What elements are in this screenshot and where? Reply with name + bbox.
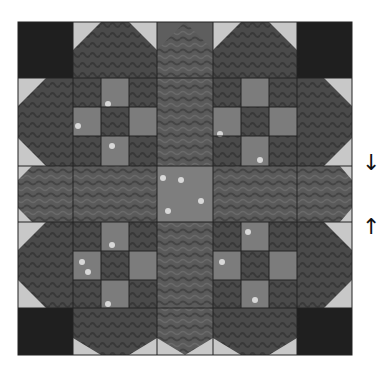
corner-square-tl (18, 22, 73, 78)
center-square (157, 166, 213, 222)
quilt-block (0, 0, 389, 383)
star-point-top-fabric (157, 22, 213, 190)
arrow-up-icon: ↑ (362, 216, 380, 238)
arrow-down-icon: ↓ (362, 152, 380, 174)
corner-square-tr (297, 22, 352, 78)
corner-square-br (297, 308, 352, 355)
corner-square-bl (18, 308, 73, 355)
